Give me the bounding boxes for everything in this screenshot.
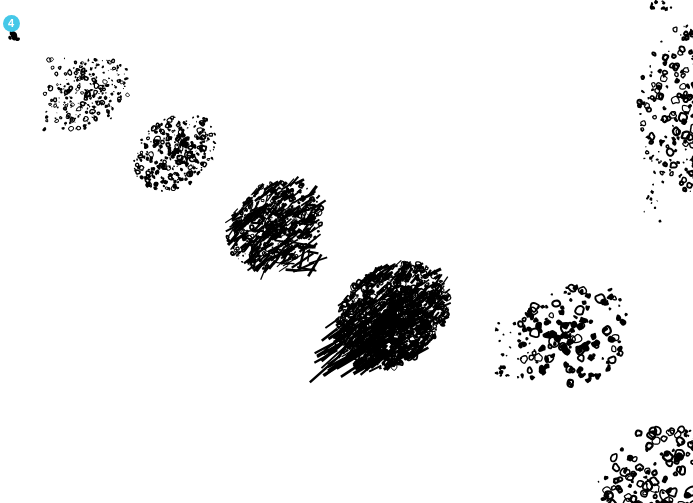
binary-microscopy-image	[0, 0, 693, 503]
image-viewport: 4	[0, 0, 693, 503]
annotation-marker-4[interactable]: 4	[3, 15, 20, 32]
annotation-marker-label: 4	[8, 17, 14, 28]
